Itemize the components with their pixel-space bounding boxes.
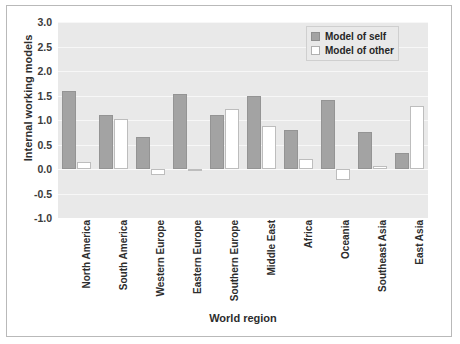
y-tick-label: 0.0 (6, 164, 52, 175)
bar (173, 94, 187, 169)
bar (247, 96, 261, 170)
y-tick-label: 0.5 (6, 140, 52, 151)
x-tick-label: Southern Europe (229, 220, 240, 301)
bar (77, 162, 91, 169)
legend-item-model-of-other: Model of other (311, 43, 394, 57)
y-axis-ticks: 3.02.52.01.51.00.50.0-0.5-1.0 (0, 22, 52, 218)
y-tick-label: 1.0 (6, 115, 52, 126)
chart-figure: Internal working models 3.02.52.01.51.00… (0, 0, 460, 344)
x-tick-label: North America (81, 220, 92, 289)
bar (225, 109, 239, 169)
bar (99, 115, 113, 169)
x-axis-ticks: North AmericaSouth AmericaWestern Europe… (58, 220, 428, 306)
bar (151, 169, 165, 175)
legend-label-model-of-self: Model of self (325, 31, 386, 42)
bar (188, 169, 202, 171)
x-tick-label: Africa (303, 220, 314, 248)
legend-swatch-model-of-self (311, 32, 320, 41)
bar (336, 169, 350, 180)
y-tick-label: 1.5 (6, 91, 52, 102)
x-tick-label: South America (118, 220, 129, 290)
y-tick-label: 3.0 (6, 17, 52, 28)
legend-item-model-of-self: Model of self (311, 29, 394, 43)
x-tick-label: East Asia (414, 220, 425, 265)
legend-swatch-model-of-other (311, 46, 320, 55)
y-tick-label: 2.5 (6, 42, 52, 53)
chart-legend: Model of self Model of other (306, 26, 399, 61)
bar (299, 159, 313, 169)
bar (114, 119, 128, 169)
bar (210, 115, 224, 169)
bar (395, 153, 409, 169)
bar (62, 91, 76, 169)
x-tick-label: Eastern Europe (192, 220, 203, 294)
legend-label-model-of-other: Model of other (325, 45, 394, 56)
bar (136, 137, 150, 169)
x-tick-label: Oceania (340, 220, 351, 259)
bar (284, 130, 298, 169)
bar (373, 166, 387, 169)
x-axis-title: World region (58, 312, 428, 324)
bar (358, 132, 372, 169)
bar (321, 100, 335, 169)
bar (262, 126, 276, 169)
x-tick-label: Western Europe (155, 220, 166, 297)
x-tick-label: Middle East (266, 220, 277, 276)
x-tick-label: Southeast Asia (377, 220, 388, 292)
y-tick-label: 2.0 (6, 66, 52, 77)
y-tick-label: -0.5 (6, 189, 52, 200)
y-tick-label: -1.0 (6, 213, 52, 224)
bar (410, 106, 424, 169)
